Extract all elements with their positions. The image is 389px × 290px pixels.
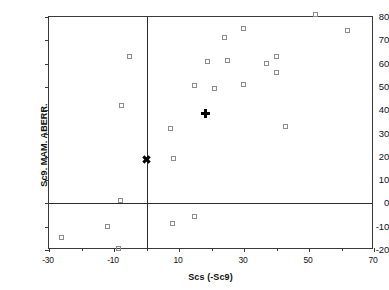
y-tick-label: 40 (348, 104, 389, 115)
data-point (212, 86, 217, 91)
x-tick (114, 248, 115, 252)
data-point (170, 221, 175, 226)
y-tick-label: 80 (348, 11, 389, 22)
x-tick-label: -30 (42, 255, 54, 265)
x-tick-minor (342, 248, 343, 251)
data-point (192, 83, 197, 88)
y-tick (45, 180, 49, 181)
data-point (274, 54, 279, 59)
data-point (192, 214, 197, 219)
y-tick (45, 64, 49, 65)
y-tick-label: 60 (348, 57, 389, 68)
y-tick (45, 227, 49, 228)
y-tick (45, 203, 49, 204)
data-point (168, 126, 173, 131)
y-tick-label: 30 (348, 127, 389, 138)
data-point (105, 224, 110, 229)
plot-area (48, 16, 373, 249)
data-point (171, 156, 176, 161)
scatter-plot-figure: Sc9. MAM. ABERR. Scs (-Sc9) 807060504030… (0, 0, 389, 290)
data-point (313, 12, 318, 17)
data-point (241, 82, 246, 87)
x-tick (49, 248, 50, 252)
data-point (119, 103, 124, 108)
x-tick-label: 50 (303, 255, 312, 265)
y-tick-label: 20 (348, 150, 389, 161)
data-point (127, 54, 132, 59)
y-tick (45, 87, 49, 88)
data-point (225, 58, 230, 63)
data-point (59, 235, 64, 240)
x-tick-minor (277, 248, 278, 251)
x-tick-label: 10 (173, 255, 182, 265)
y-tick-label: 70 (348, 34, 389, 45)
y-tick-label: 0 (348, 197, 389, 208)
data-point (241, 26, 246, 31)
y-tick (45, 110, 49, 111)
data-point (205, 59, 210, 64)
data-point (142, 155, 151, 164)
y-tick-label: 50 (348, 80, 389, 91)
y-tick (45, 40, 49, 41)
data-point (283, 124, 288, 129)
x-tick-label: -10 (107, 255, 119, 265)
x-axis-label: Scs (-Sc9) (48, 272, 373, 282)
data-point (118, 198, 123, 203)
y-tick-label: -20 (348, 244, 389, 255)
y-tick (45, 157, 49, 158)
y-tick (45, 17, 49, 18)
data-point (345, 28, 350, 33)
x-tick-label: 70 (368, 255, 377, 265)
y-tick (45, 134, 49, 135)
reference-line-horizontal (49, 203, 372, 204)
x-tick-label: 30 (238, 255, 247, 265)
data-point (116, 246, 121, 251)
reference-line-vertical (147, 17, 148, 248)
x-tick-minor (147, 248, 148, 251)
data-point (201, 109, 210, 118)
x-tick-minor (212, 248, 213, 251)
x-tick (244, 248, 245, 252)
x-tick-minor (82, 248, 83, 251)
x-tick (179, 248, 180, 252)
y-tick-label: 10 (348, 174, 389, 185)
data-point (222, 35, 227, 40)
data-point (274, 70, 279, 75)
x-tick (309, 248, 310, 252)
y-tick-label: -10 (348, 220, 389, 231)
data-point (264, 61, 269, 66)
